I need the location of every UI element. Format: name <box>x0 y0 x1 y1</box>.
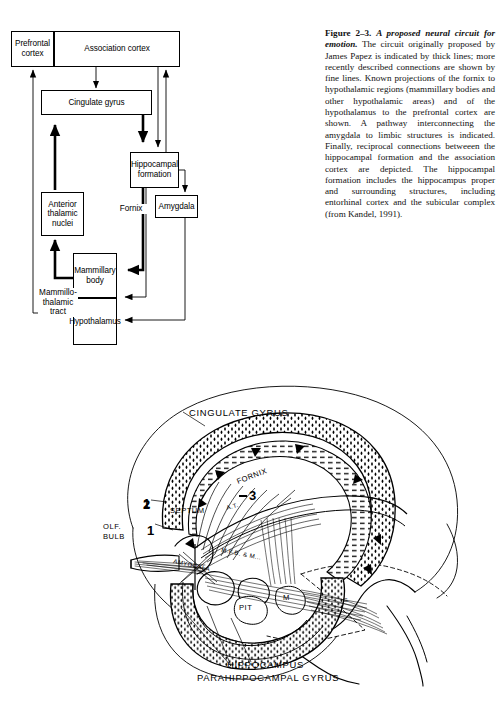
flowchart-edge-label-mammillothalamic-tract: Mammillo- thalamic tract <box>38 288 78 317</box>
limbic-system-illustration: CINGULATE GYRUS FORNIX SEPTUM A.T. OLF. … <box>55 378 503 688</box>
flowchart-box-cingulate-gyrus: Cingulate gyrus <box>41 90 152 115</box>
figure-caption-label: Figure 2–3. <box>325 28 371 38</box>
flowchart-box-prefrontal-cortex: Prefrontal cortex <box>11 31 54 67</box>
figure-caption: Figure 2–3. A proposed neural circuit fo… <box>325 28 495 220</box>
flowchart-box-label: Association cortex <box>84 44 150 54</box>
label-pituitary: PIT <box>239 603 252 612</box>
flowchart-box-association-cortex: Association cortex <box>54 31 180 67</box>
label-olfactory-bulb-line1: OLF. <box>103 522 121 531</box>
marker-3-number: 3 <box>249 488 256 503</box>
flowchart-box-mammillary-body: Mammillary body <box>73 253 117 298</box>
flowchart-box-anterior-thalamic-nuclei: Anterior thalamic nuclei <box>41 192 84 236</box>
marker-2-number-visible: 2 <box>143 497 150 512</box>
label-mammillary: M <box>283 593 290 602</box>
label-g-marker: G <box>343 596 348 603</box>
label-cingulate-gyrus: CINGULATE GYRUS <box>189 407 288 418</box>
label-olfactory-bulb-line2: BULB <box>103 532 125 541</box>
label-amygdala: AMYGDALA <box>173 557 212 572</box>
flowchart-box-label: Cingulate gyrus <box>68 98 124 108</box>
flowchart-box-label: Hippocampal formation <box>131 160 178 179</box>
label-medial-forebrain-bundle: M.F.B. & M... <box>221 546 262 561</box>
marker-1-number-visible: 1 <box>147 523 154 538</box>
flowchart-box-label: Mammillary body <box>74 266 115 285</box>
neural-circuit-flowchart: Prefrontal cortex Association cortex Cin… <box>0 0 325 380</box>
flowchart-box-label: Hypothalamus <box>69 317 121 327</box>
flowchart-box-hypothalamus: Hypothalamus <box>73 298 117 345</box>
label-anterior-thalamus: A.T. <box>225 501 239 511</box>
figure-caption-body: The circuit originally proposed by James… <box>325 39 495 218</box>
flowchart-box-label: Amygdala <box>158 202 194 212</box>
flowchart-box-label: Prefrontal cortex <box>15 39 50 58</box>
label-hippocampus: HIPPOCAMPUS <box>227 659 304 670</box>
flowchart-box-amygdala: Amygdala <box>155 195 198 218</box>
flowchart-box-label: Anterior thalamic nuclei <box>47 200 77 229</box>
flowchart-edge-label-fornix: Fornix <box>113 204 149 214</box>
illustration-labels: CINGULATE GYRUS FORNIX SEPTUM A.T. OLF. … <box>55 378 503 688</box>
label-fornix: FORNIX <box>235 466 268 486</box>
label-parahippocampal-gyrus: PARAHIPPOCAMPAL GYRUS <box>197 672 339 683</box>
label-septum: SEPTUM <box>170 506 205 515</box>
flowchart-box-hippocampal-formation: Hippocampal formation <box>130 152 179 188</box>
